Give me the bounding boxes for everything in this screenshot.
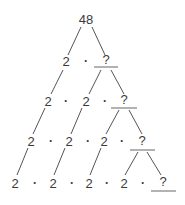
root-number: 48 (79, 13, 93, 26)
factor: 2 (65, 135, 72, 148)
multiply-dot: · (120, 135, 124, 147)
tree-branches (0, 0, 185, 205)
multiply-dot: · (70, 177, 74, 189)
factor: 2 (44, 95, 51, 108)
factor-tree-diagram: 48 2 · ? 2 · 2 · ? 2 · 2 · 2 · ? 2 · 2 ·… (0, 0, 185, 205)
multiply-dot: · (141, 177, 145, 189)
factor: 2 (85, 177, 92, 190)
multiply-dot: · (86, 135, 90, 147)
factor: 2 (11, 177, 18, 190)
factor: 2 (82, 95, 89, 108)
unknown-factor: ? (102, 53, 109, 66)
multiply-dot: · (105, 177, 109, 189)
multiply-dot: · (64, 95, 68, 107)
factor: 2 (27, 135, 34, 148)
multiply-dot: · (103, 95, 107, 107)
factor: 2 (62, 55, 69, 68)
unknown-factor: ? (138, 134, 145, 147)
unknown-factor: ? (120, 93, 127, 106)
multiply-dot: · (49, 135, 53, 147)
multiply-dot: · (33, 177, 37, 189)
factor: 2 (120, 177, 127, 190)
multiply-dot: · (84, 55, 88, 67)
factor: 2 (49, 177, 56, 190)
factor: 2 (100, 135, 107, 148)
unknown-factor: ? (159, 175, 166, 188)
